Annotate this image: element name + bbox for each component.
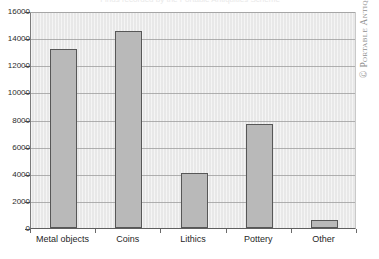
gridline [31,121,355,122]
gridline [31,39,355,40]
gridline [31,66,355,67]
plot-area [30,12,356,229]
bar-coins [115,31,142,228]
bar-metal-objects [50,49,77,228]
x-axis-tick-mark [356,229,357,233]
gridline [31,12,355,13]
gridline [31,148,355,149]
x-axis-tick-mark [30,229,31,233]
bar-chart-figure: Finds recorded by the Portable Antiquiti… [0,0,379,259]
x-axis-tick-mark [291,229,292,233]
x-axis-tick-label: Other [278,234,368,245]
copyright-credit: © Portable Antiquities Scheme [357,0,371,78]
chart-title: Finds recorded by the Portable Antiquiti… [95,0,285,4]
bar-pottery [246,124,273,228]
y-axis: 0200040006000800010000120001400016000 [0,0,30,259]
gridline [31,93,355,94]
x-axis-tick-mark [160,229,161,233]
bar-other [311,220,338,228]
x-axis-tick-mark [226,229,227,233]
x-axis-tick-mark [95,229,96,233]
bar-lithics [181,173,208,228]
